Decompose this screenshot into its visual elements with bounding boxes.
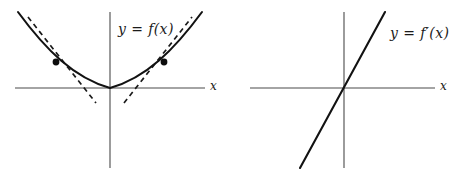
- right-x-axis-label: x: [440, 80, 447, 92]
- tangency-point-right: [161, 59, 168, 66]
- tangency-point-left: [53, 59, 60, 66]
- figure-container: y = f(x) x y = f′(x) x: [0, 0, 456, 181]
- panel-derivative-graph: y = f′(x) x: [228, 0, 456, 181]
- left-plot-svg: [0, 0, 228, 181]
- derivative-line: [300, 12, 385, 168]
- panel-function-graph: y = f(x) x: [0, 0, 228, 181]
- left-x-axis-label: x: [210, 80, 217, 92]
- right-curve-label: y = f′(x): [390, 26, 449, 40]
- left-curve-label: y = f(x): [118, 22, 174, 36]
